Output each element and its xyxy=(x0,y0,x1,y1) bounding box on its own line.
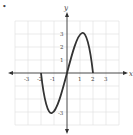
y-axis-down-arrow-icon xyxy=(65,129,69,134)
y-axis-up-arrow-icon xyxy=(65,12,69,17)
svg-text:-3: -3 xyxy=(24,76,30,82)
svg-text:-3: -3 xyxy=(58,110,64,116)
x-axis-left-arrow-icon xyxy=(8,71,13,75)
svg-text:2: 2 xyxy=(60,44,64,50)
problem-marker: • xyxy=(2,2,7,11)
svg-text:3: 3 xyxy=(104,76,108,82)
axes xyxy=(10,14,126,132)
svg-text:-1: -1 xyxy=(50,76,55,82)
svg-text:1: 1 xyxy=(78,76,82,82)
x-axis-label: x xyxy=(129,70,133,78)
svg-text:3: 3 xyxy=(60,31,64,37)
x-axis-right-arrow-icon xyxy=(123,71,128,75)
svg-text:2: 2 xyxy=(91,76,95,82)
y-axis-label: y xyxy=(63,4,69,12)
graph: • x y -3 -2 -1 1 2 3 3 2 1 -3 xyxy=(0,0,133,135)
svg-text:1: 1 xyxy=(60,57,64,63)
